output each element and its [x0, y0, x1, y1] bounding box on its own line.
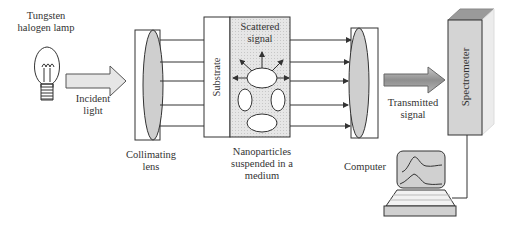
transmitted-beams	[290, 40, 351, 126]
substrate-label: Substrate	[211, 47, 223, 107]
nanoparticles-label: Nanoparticles suspended in a medium	[226, 146, 298, 182]
collimating-lens	[135, 30, 163, 140]
nanoparticle-spectroscopy-diagram: Tungsten halogen lamp Incident light Col…	[0, 0, 509, 229]
collimating-lens-label: Collimating lens	[118, 149, 184, 173]
scattered-signal-label: Scattered signal	[231, 21, 289, 45]
spectrometer-label: Spectrometer	[459, 37, 471, 117]
nanoparticle	[238, 89, 252, 111]
tungsten-lamp-icon	[35, 47, 60, 100]
spectrometer	[448, 9, 494, 135]
transmitted-signal-arrow	[384, 67, 445, 93]
transmitted-signal-label: Transmitted signal	[380, 97, 446, 121]
computer-icon	[384, 151, 456, 216]
incident-light-arrow	[66, 66, 126, 96]
cable	[452, 135, 467, 198]
nanoparticle	[271, 89, 285, 111]
nanoparticle	[247, 114, 277, 132]
lamp-label: Tungsten halogen lamp	[10, 10, 82, 34]
collimated-beams	[160, 40, 204, 126]
focusing-lens	[349, 28, 378, 138]
computer-label: Computer	[339, 161, 391, 173]
incident-light-label: Incident light	[68, 93, 118, 117]
